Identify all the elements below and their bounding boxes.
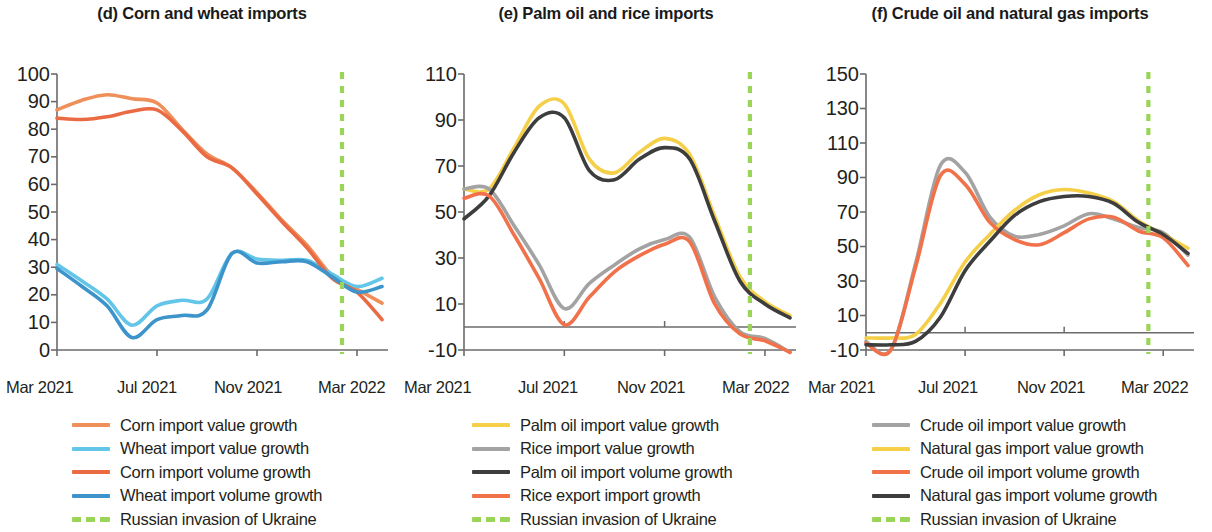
panel-e-plot-area: -101030507090110	[404, 58, 808, 376]
panel-f-xtick-3: Mar 2022	[1121, 378, 1188, 397]
svg-text:30: 30	[837, 270, 859, 292]
legend-color-swatch	[872, 494, 910, 498]
svg-text:110: 110	[425, 63, 457, 85]
svg-text:130: 130	[826, 97, 859, 119]
legend-item: Corn import value growth	[0, 414, 404, 437]
chart-panel-f: (f) Crude oil and natural gas imports -1…	[808, 0, 1212, 532]
legend-item-label: Rice import value growth	[520, 439, 694, 458]
legend-color-swatch	[872, 447, 910, 451]
legend-item-label: Wheat import value growth	[120, 439, 309, 458]
legend-item: Rice export import growth	[404, 485, 808, 508]
svg-text:-10: -10	[830, 339, 859, 361]
panel-e-xtick-2: Nov 2021	[617, 378, 685, 397]
legend-item: Palm oil import value growth	[404, 414, 808, 437]
legend-color-swatch	[472, 517, 510, 522]
legend-item: Palm oil import volume growth	[404, 461, 808, 484]
panel-e-svg: -101030507090110	[404, 58, 808, 376]
svg-text:50: 50	[837, 235, 859, 257]
svg-text:10: 10	[28, 311, 50, 333]
legend-item: Russian invasion of Ukraine	[404, 508, 808, 531]
svg-text:70: 70	[28, 145, 50, 167]
svg-text:30: 30	[28, 256, 50, 278]
panel-d-xtick-0: Mar 2021	[6, 378, 73, 397]
legend-color-swatch	[872, 517, 910, 522]
legend-item-label: Russian invasion of Ukraine	[120, 510, 316, 529]
svg-text:100: 100	[17, 63, 50, 85]
svg-text:90: 90	[837, 166, 859, 188]
svg-text:70: 70	[837, 201, 859, 223]
svg-text:80: 80	[28, 118, 50, 140]
legend-item-label: Palm oil import value growth	[520, 416, 719, 435]
legend-color-swatch	[472, 494, 510, 498]
legend-color-swatch	[472, 447, 510, 451]
panel-f-xtick-1: Jul 2021	[918, 378, 978, 397]
panel-e-title: (e) Palm oil and rice imports	[404, 4, 808, 23]
panel-e-xtick-3: Mar 2022	[722, 378, 789, 397]
panel-e-legend: Palm oil import value growth Rice import…	[404, 414, 808, 531]
panel-d-legend: Corn import value growth Wheat import va…	[0, 414, 404, 531]
chart-panel-d: (d) Corn and wheat imports 0102030405060…	[0, 0, 404, 532]
legend-item: Russian invasion of Ukraine	[0, 508, 404, 531]
legend-item: Crude oil import value growth	[808, 414, 1212, 437]
legend-item-label: Corn import volume growth	[120, 463, 311, 482]
legend-item-label: Wheat import volume growth	[120, 486, 322, 505]
svg-text:40: 40	[28, 228, 50, 250]
panel-d-xtick-1: Jul 2021	[117, 378, 177, 397]
panel-f-xtick-0: Mar 2021	[808, 378, 875, 397]
legend-item-label: Rice export import growth	[520, 486, 701, 505]
legend-color-swatch	[72, 494, 110, 498]
legend-item-label: Russian invasion of Ukraine	[920, 510, 1116, 529]
svg-text:70: 70	[435, 155, 457, 177]
panel-e-xtick-0: Mar 2021	[404, 378, 471, 397]
multi-panel-line-chart-figure: (d) Corn and wheat imports 0102030405060…	[0, 0, 1212, 532]
svg-text:30: 30	[435, 247, 457, 269]
panel-f-legend: Crude oil import value growth Natural ga…	[808, 414, 1212, 531]
legend-color-swatch	[472, 423, 510, 427]
svg-text:10: 10	[837, 304, 859, 326]
svg-text:-10: -10	[428, 339, 457, 361]
panel-d-xtick-3: Mar 2022	[318, 378, 385, 397]
chart-panel-e: (e) Palm oil and rice imports -101030507…	[404, 0, 808, 532]
legend-item: Natural gas import value growth	[808, 438, 1212, 461]
panel-f-xtick-2: Nov 2021	[1017, 378, 1085, 397]
legend-item-label: Natural gas import volume growth	[920, 486, 1157, 505]
legend-color-swatch	[72, 517, 110, 522]
legend-item-label: Crude oil import value growth	[920, 416, 1126, 435]
legend-item: Russian invasion of Ukraine	[808, 508, 1212, 531]
svg-text:90: 90	[435, 109, 457, 131]
legend-item-label: Russian invasion of Ukraine	[520, 510, 716, 529]
legend-item-label: Palm oil import volume growth	[520, 463, 732, 482]
panel-d-title: (d) Corn and wheat imports	[0, 4, 404, 23]
legend-color-swatch	[872, 470, 910, 474]
legend-item: Rice import value growth	[404, 438, 808, 461]
legend-item-label: Corn import value growth	[120, 416, 297, 435]
panel-d-svg: 0102030405060708090100	[0, 58, 404, 376]
legend-item-label: Crude oil import volume growth	[920, 463, 1139, 482]
svg-text:20: 20	[28, 283, 50, 305]
svg-text:0: 0	[39, 339, 50, 361]
legend-color-swatch	[72, 423, 110, 427]
svg-text:90: 90	[28, 90, 50, 112]
legend-item: Wheat import value growth	[0, 438, 404, 461]
svg-text:50: 50	[28, 201, 50, 223]
panel-d-x-axis-labels: Mar 2021 Jul 2021 Nov 2021 Mar 2022	[0, 378, 404, 404]
legend-item: Corn import volume growth	[0, 461, 404, 484]
panel-f-title: (f) Crude oil and natural gas imports	[808, 4, 1212, 23]
legend-item-label: Natural gas import value growth	[920, 439, 1144, 458]
svg-text:110: 110	[827, 132, 859, 154]
panel-d-xtick-2: Nov 2021	[214, 378, 282, 397]
legend-item: Natural gas import volume growth	[808, 485, 1212, 508]
legend-color-swatch	[72, 470, 110, 474]
legend-color-swatch	[872, 423, 910, 427]
svg-text:150: 150	[826, 63, 859, 85]
panel-f-svg: -101030507090110130150	[808, 58, 1212, 376]
svg-text:60: 60	[28, 173, 50, 195]
legend-color-swatch	[472, 470, 510, 474]
panel-f-plot-area: -101030507090110130150	[808, 58, 1212, 376]
legend-color-swatch	[72, 447, 110, 451]
panel-e-xtick-1: Jul 2021	[518, 378, 578, 397]
panel-d-plot-area: 0102030405060708090100	[0, 58, 404, 376]
svg-text:10: 10	[435, 293, 457, 315]
panel-e-x-axis-labels: Mar 2021 Jul 2021 Nov 2021 Mar 2022	[404, 378, 808, 404]
legend-item: Crude oil import volume growth	[808, 461, 1212, 484]
